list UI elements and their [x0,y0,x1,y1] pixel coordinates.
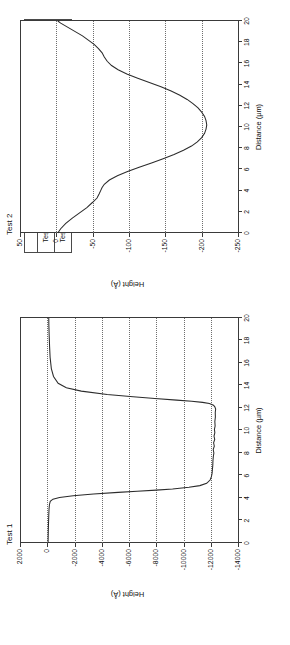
figure-canvas: Platen1 Platen2 Dishing @ 10 µm via Test… [0,0,290,645]
chart-test2: Test 2500-50-100-150-200-250024681012141… [0,0,290,285]
data-trace [0,0,290,285]
trace-path [58,21,207,233]
rotated-figure-group: Platen1 Platen2 Dishing @ 10 µm via Test… [0,0,290,645]
data-trace [0,258,290,605]
trace-path [48,318,216,543]
chart-test1: Test 120000-2000-4000-6000-8000-10000-12… [0,285,290,605]
